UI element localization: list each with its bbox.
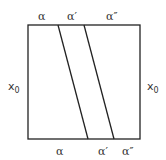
left-label-x0: x0 [8, 80, 20, 95]
right-label-x0: x0 [147, 80, 159, 95]
bottom-label-alpha-double-prime: α″ [122, 145, 134, 158]
bottom-label-alpha-prime: α′ [98, 145, 108, 158]
top-label-alpha-double-prime: α″ [106, 10, 118, 23]
bottom-label-alpha: α [56, 145, 64, 158]
diagonal-line-1 [58, 25, 88, 139]
diagonal-line-2 [84, 25, 114, 139]
top-label-alpha-prime: α′ [67, 10, 77, 23]
diagram-canvas: α α′ α″ α α′ α″ x0 x0 [0, 0, 166, 160]
top-label-alpha: α [38, 10, 46, 23]
